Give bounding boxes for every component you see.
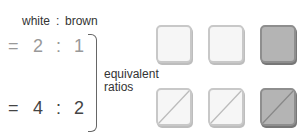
brown-square — [260, 25, 296, 63]
header-sep: : — [56, 14, 59, 28]
equals-2: = — [8, 98, 19, 119]
equals-1: = — [8, 36, 19, 57]
white-square-split-1 — [156, 88, 192, 126]
brown-square-split — [260, 88, 296, 126]
curly-brace — [88, 34, 97, 132]
ratio1-sep: : — [56, 36, 61, 57]
diagonal-line-icon — [262, 90, 294, 124]
header-brown: brown — [65, 14, 98, 28]
note-line2: ratios — [104, 81, 159, 94]
diagonal-line-icon — [158, 90, 190, 124]
header-white: white — [22, 14, 50, 28]
white-square-2 — [208, 25, 244, 63]
ratio1-white: 2 — [33, 36, 43, 57]
ratio1-brown: 1 — [74, 36, 84, 57]
ratio2-sep: : — [56, 98, 61, 119]
white-square-split-2 — [208, 88, 244, 126]
ratio2-white: 4 — [33, 98, 43, 119]
equivalent-ratios-label: equivalent ratios — [104, 68, 159, 94]
white-square-1 — [156, 25, 192, 63]
diagonal-line-icon — [210, 90, 242, 124]
ratio2-brown: 2 — [74, 98, 84, 119]
